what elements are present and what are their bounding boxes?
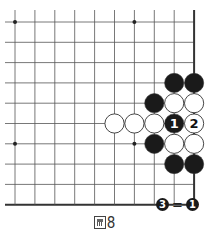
white-stone — [165, 94, 184, 113]
figure-number: 8 — [107, 214, 116, 232]
black-stone — [185, 73, 204, 92]
figure-icon — [94, 216, 106, 229]
black-stone-3-icon: 3 — [156, 198, 169, 211]
black-stone — [145, 94, 164, 113]
black-stone — [185, 155, 204, 174]
move-number: 1 — [170, 116, 179, 131]
black-stone — [165, 73, 184, 92]
figure-caption: 8 — [0, 214, 209, 232]
move-note: 3 = 1 — [156, 197, 199, 212]
star-point — [132, 20, 136, 24]
black-stone-1-icon: 1 — [186, 198, 199, 211]
star-point — [13, 142, 17, 146]
star-point — [132, 142, 136, 146]
move-number: 2 — [190, 116, 199, 131]
black-stone-1: 1 — [165, 114, 184, 133]
go-board-diagram: 12 — [0, 0, 209, 210]
black-stone — [165, 155, 184, 174]
white-stone-2: 2 — [185, 114, 204, 133]
white-stone — [185, 134, 204, 153]
white-stone — [145, 114, 164, 133]
black-stone — [145, 134, 164, 153]
white-stone — [125, 114, 144, 133]
white-stone — [185, 94, 204, 113]
white-stone — [105, 114, 124, 133]
star-point — [13, 20, 17, 24]
white-stone — [165, 134, 184, 153]
equals-sign: = — [172, 197, 183, 212]
